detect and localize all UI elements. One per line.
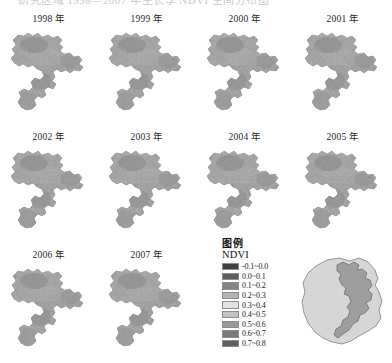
map-tile-2000[interactable]: 2000 年: [196, 9, 294, 127]
map-tile-2003[interactable]: 2003 年: [98, 127, 196, 245]
province-reference-map: [296, 252, 388, 356]
legend-swatch-icon: [222, 282, 239, 289]
legend-swatch-icon: [222, 321, 239, 328]
map-tile-2006[interactable]: 2006 年: [0, 245, 98, 363]
legend-swatch-icon: [222, 311, 239, 318]
ndvi-map-shape: [294, 23, 392, 125]
ndvi-map-shape: [0, 259, 98, 361]
legend-item-label: 0.1~0.2: [242, 281, 266, 290]
legend: 图例 NDVI -0.1~0.0 0.0~0.1 0.1~0.2 0.2~0.3…: [222, 238, 294, 348]
map-tile-1998[interactable]: 1998 年: [0, 9, 98, 127]
ndvi-map-shape: [0, 141, 98, 243]
ndvi-map-shape: [196, 23, 294, 125]
legend-item: -0.1~0.0: [222, 262, 294, 272]
legend-swatch-icon: [222, 263, 239, 270]
legend-item: 0.3~0.4: [222, 300, 294, 310]
legend-swatch-icon: [222, 301, 239, 308]
map-tile-2005[interactable]: 2005 年: [294, 127, 392, 245]
legend-item: 0.2~0.3: [222, 291, 294, 301]
legend-item-label: 0.0~0.1: [242, 272, 266, 281]
legend-item-label: 0.4~0.5: [242, 310, 266, 319]
map-tile-1999[interactable]: 1999 年: [98, 9, 196, 127]
legend-item: 0.1~0.2: [222, 281, 294, 291]
legend-item-label: -0.1~0.0: [242, 262, 268, 271]
legend-title: 图例: [222, 238, 294, 249]
legend-swatch-icon: [222, 273, 239, 280]
figure-caption-cutoff: 研究区域 1998—2007 年生长季 NDVI 空间分布图: [0, 0, 392, 9]
legend-item: 0.6~0.7: [222, 329, 294, 339]
ndvi-map-shape: [196, 141, 294, 243]
legend-item-label: 0.5~0.6: [242, 320, 266, 329]
ndvi-map-shape: [294, 141, 392, 243]
legend-item-label: 0.2~0.3: [242, 291, 266, 300]
ndvi-map-shape: [98, 23, 196, 125]
legend-subtitle-ndvi: NDVI: [222, 249, 294, 261]
ndvi-map-shape: [98, 141, 196, 243]
legend-item: 0.5~0.6: [222, 320, 294, 330]
map-tile-2007[interactable]: 2007 年: [98, 245, 196, 363]
ndvi-map-shape: [98, 259, 196, 361]
legend-item: 0.0~0.1: [222, 272, 294, 282]
map-row: 2002 年 2003 年 2004 年 2005 年: [0, 127, 392, 245]
map-tile-2001[interactable]: 2001 年: [294, 9, 392, 127]
map-row: 1998 年 1999 年 2000 年 2001 年: [0, 9, 392, 127]
legend-class-list: -0.1~0.0 0.0~0.1 0.1~0.2 0.2~0.3 0.3~0.4…: [222, 262, 294, 348]
map-tile-2004[interactable]: 2004 年: [196, 127, 294, 245]
ndvi-map-shape: [0, 23, 98, 125]
legend-item: 0.7~0.8: [222, 339, 294, 349]
legend-swatch-icon: [222, 330, 239, 337]
legend-item-label: 0.7~0.8: [242, 339, 266, 348]
legend-swatch-icon: [222, 292, 239, 299]
map-tile-2002[interactable]: 2002 年: [0, 127, 98, 245]
legend-item-label: 0.3~0.4: [242, 301, 266, 310]
legend-item: 0.4~0.5: [222, 310, 294, 320]
legend-item-label: 0.6~0.7: [242, 329, 266, 338]
legend-swatch-icon: [222, 340, 239, 347]
figure-caption-text: 研究区域 1998—2007 年生长季 NDVI 空间分布图: [18, 0, 270, 7]
